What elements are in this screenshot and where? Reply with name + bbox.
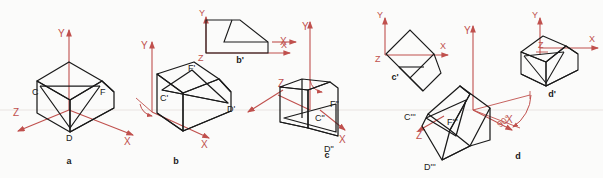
view-d-aux-x-label: X (589, 34, 595, 44)
view-c-aux-caption: c' (391, 72, 398, 82)
view-b-x-label: X (201, 139, 208, 150)
view-c-x-label: X (339, 134, 346, 145)
view-d-y-label: Y (464, 25, 471, 36)
view-c-aux-z-label: Z (375, 54, 381, 64)
view-b-y-label: Y (141, 40, 148, 51)
view-b-vertex-d: D' (227, 104, 235, 114)
view-c-aux-y-label: Y (377, 10, 383, 20)
view-d-vertex-c: C''' (404, 112, 416, 122)
view-b-aux-y-label: Y (199, 8, 205, 18)
view-d-caption: d (515, 151, 521, 161)
view-a-x-label: X (124, 136, 131, 147)
view-b-aux-caption: b' (236, 55, 244, 65)
view-c-aux-x-label: X (440, 41, 446, 51)
view-a-vertex-f: F (100, 87, 106, 97)
view-c-y-label: Y (302, 21, 309, 32)
view-d-vertex-d: D''' (424, 162, 436, 172)
view-d-z-label: Z (416, 130, 422, 141)
view-c-caption: c (324, 150, 329, 160)
view-b-vertex-f: F' (188, 63, 195, 73)
view-a-y-label: Y (58, 28, 65, 39)
view-a-vertex-d: D (66, 133, 73, 143)
view-d-aux-caption: d' (548, 89, 556, 99)
view-a-z-label: Z (13, 107, 19, 118)
technical-drawing-sheet: Y X Z C D F a Y (0, 0, 603, 178)
view-c-vertex-c: C" (315, 113, 325, 123)
view-d-aux-z-label: Z (538, 40, 544, 50)
view-b-caption: b (173, 156, 179, 166)
view-b-vertex-c: C' (160, 93, 168, 103)
view-b-aux-z-label: Z (198, 53, 204, 63)
view-a-vertex-c: C (32, 87, 39, 97)
view-c-vertex-f: F" (330, 99, 339, 109)
view-d-aux-y-label: Y (532, 10, 538, 20)
view-d-vertex-f: F''' (447, 117, 458, 127)
